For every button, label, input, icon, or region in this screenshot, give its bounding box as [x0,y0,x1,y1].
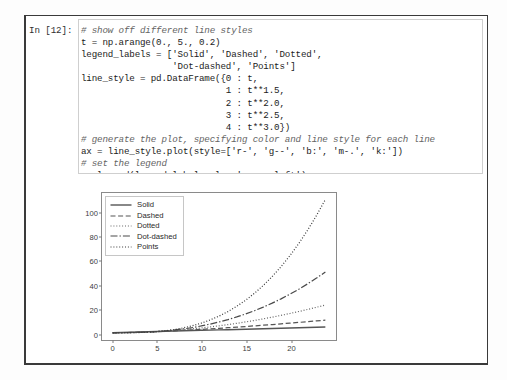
code-line: ax.legend(legend_labels, loc='upper left… [81,170,312,174]
legend-item-label: Dashed [137,212,164,220]
notebook-input-row: In [12]: # show off different line style… [26,17,486,177]
x-axis-tick-mark [291,340,292,343]
legend-line-swatch [110,212,132,220]
code-line: # generate the plot, specifying color an… [81,134,435,145]
x-axis-tick-label: 10 [198,344,206,353]
plot-axes-frame: SolidDashedDottedDot-dashedPoints 020406… [101,192,337,341]
legend-line-swatch [110,222,132,230]
y-axis-tick-mark [99,310,102,311]
code-line: t = np.arange(0., 5., 0.2) [81,37,220,48]
code-line: 1 : t**1.5, [81,85,285,96]
code-line: 2 : t**2.0, [81,98,285,109]
code-editor-cell[interactable]: # show off different line styles t = np.… [78,19,483,174]
legend-line-swatch [110,201,132,209]
x-axis-tick-label: 15 [243,344,251,353]
y-axis-tick-label: 40 [90,281,98,290]
y-axis-tick-mark [99,261,102,262]
legend-item-label: Solid [137,201,154,209]
y-axis-tick-mark [99,212,102,213]
y-axis-tick-label: 80 [90,232,98,241]
code-line: # set the legend [81,158,167,169]
x-axis-tick-label: 20 [287,344,295,353]
x-axis-tick-mark [202,340,203,343]
y-axis-tick-mark [99,236,102,237]
code-line: 4 : t**3.0}) [81,122,290,133]
y-axis-tick-label: 100 [85,208,98,217]
plot-line-dot-dashed [113,272,326,333]
legend-line-swatch [110,243,132,251]
code-line: legend_labels = ['Solid', 'Dashed', 'Dot… [81,49,322,60]
x-axis-tick-mark [112,340,113,343]
code-line: 3 : t**2.5, [81,110,285,121]
code-line: ax = line_style.plot(style=['r-', 'g--',… [81,146,403,157]
y-axis-tick-mark [99,285,102,286]
code-source-text[interactable]: # show off different line styles t = np.… [81,25,435,174]
legend-item-label: Dot-dashed [137,233,177,241]
matplotlib-figure-output: SolidDashedDottedDot-dashedPoints 020406… [60,180,360,360]
legend-item[interactable]: Points [110,242,177,252]
legend-item[interactable]: Solid [110,200,177,210]
code-line: # show off different line styles [81,25,253,36]
code-line: 'Dot-dashed', 'Points'] [81,61,296,72]
legend-item-label: Dotted [137,222,160,230]
legend-line-swatch [110,232,132,240]
plot-legend[interactable]: SolidDashedDottedDot-dashedPoints [105,196,184,256]
code-line: line_style = pd.DataFrame({0 : t, [81,73,258,84]
y-axis-tick-label: 60 [90,257,98,266]
legend-item-label: Points [137,243,158,251]
execution-count-label: In [12]: [29,25,81,36]
y-axis-tick-mark [99,334,102,335]
y-axis-tick-label: 0 [94,330,98,339]
scanned-page: In [12]: # show off different line style… [0,0,507,380]
x-axis-tick-label: 0 [111,344,115,353]
legend-item[interactable]: Dot-dashed [110,231,177,241]
x-axis-tick-label: 5 [155,344,159,353]
x-axis-tick-mark [157,340,158,343]
legend-item[interactable]: Dotted [110,221,177,231]
legend-item[interactable]: Dashed [110,210,177,220]
x-axis-tick-mark [246,340,247,343]
y-axis-tick-label: 20 [90,306,98,315]
